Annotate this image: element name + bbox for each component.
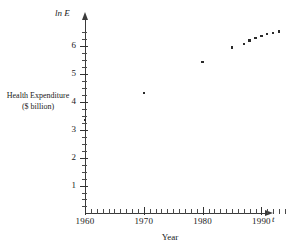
y-tick-minor (82, 53, 87, 54)
data-point (248, 39, 250, 41)
x-tick-minor (120, 209, 121, 214)
y-tick-major (80, 186, 88, 187)
x-tick-minor (161, 209, 162, 214)
x-tick-minor (279, 209, 280, 214)
x-tick-minor (209, 209, 210, 214)
y-axis-arrow-icon (82, 12, 88, 20)
y-tick-minor (82, 60, 87, 61)
x-tick-major (261, 207, 262, 215)
x-tick-major (203, 207, 204, 215)
y-tick-minor (82, 172, 87, 173)
x-tick-minor (179, 209, 180, 214)
data-point (266, 33, 268, 35)
x-tick-minor (156, 209, 157, 214)
data-point (231, 46, 233, 48)
x-tick-minor (267, 209, 268, 214)
x-tick-minor (150, 209, 151, 214)
data-point (278, 30, 280, 32)
y-tick-minor (82, 123, 87, 124)
y-tick-minor (82, 206, 87, 207)
x-tick-minor (244, 209, 245, 214)
y-tick-major (80, 130, 88, 131)
x-tick-minor (185, 209, 186, 214)
data-point (243, 43, 245, 45)
y-tick-label: 6 (62, 40, 76, 50)
x-tick-minor (273, 209, 274, 214)
y-tick-major (80, 158, 88, 159)
x-tick-minor (191, 209, 192, 214)
x-tick-minor (220, 209, 221, 214)
x-tick-label: 1990 (244, 216, 278, 226)
data-point (254, 37, 256, 39)
y-tick-minor (82, 193, 87, 194)
y-tick-label: 1 (62, 180, 76, 190)
data-point (201, 61, 203, 63)
x-tick-minor (285, 209, 286, 214)
y-tick-minor (82, 88, 87, 89)
x-tick-minor (114, 209, 115, 214)
y-tick-label: 5 (62, 68, 76, 78)
x-tick-label: 1980 (186, 216, 220, 226)
data-point (272, 32, 274, 34)
x-tick-minor (250, 209, 251, 214)
y-tick-major (80, 46, 88, 47)
x-tick-minor (103, 209, 104, 214)
x-tick-minor (173, 209, 174, 214)
y-tick-minor (82, 165, 87, 166)
x-tick-minor (132, 209, 133, 214)
y-tick-minor (82, 32, 87, 33)
x-tick-minor (238, 209, 239, 214)
y-tick-minor (82, 199, 87, 200)
y-tick-minor (82, 116, 87, 117)
data-point (260, 35, 262, 37)
y-axis-title: ln E (55, 8, 70, 18)
y-tick-minor (82, 39, 87, 40)
y-tick-minor (82, 81, 87, 82)
y-tick-minor (82, 109, 87, 110)
y-tick-major (80, 74, 88, 75)
y-tick-label: 3 (62, 124, 76, 134)
y-tick-minor (82, 67, 87, 68)
x-tick-minor (232, 209, 233, 214)
data-point (143, 92, 145, 94)
y-tick-minor (82, 151, 87, 152)
y-tick-minor (82, 144, 87, 145)
x-tick-minor (214, 209, 215, 214)
data-point (84, 119, 86, 121)
x-tick-minor (126, 209, 127, 214)
x-tick-minor (256, 209, 257, 214)
x-tick-major (85, 207, 86, 215)
y-tick-label: 2 (62, 152, 76, 162)
y-tick-label: 4 (62, 96, 76, 106)
y-tick-minor (82, 137, 87, 138)
y-tick-minor (82, 95, 87, 96)
chart-canvas: ln E t Health Expenditure ($ billion) Ye… (0, 0, 287, 249)
x-tick-label: 1970 (127, 216, 161, 226)
x-tick-minor (167, 209, 168, 214)
y-tick-major (80, 102, 88, 103)
x-tick-minor (97, 209, 98, 214)
x-tick-label: 1960 (68, 216, 102, 226)
y-tick-minor (82, 179, 87, 180)
x-tick-minor (91, 209, 92, 214)
x-axis-title: Year (140, 232, 200, 242)
x-tick-minor (197, 209, 198, 214)
x-tick-major (144, 207, 145, 215)
x-tick-minor (109, 209, 110, 214)
x-tick-minor (138, 209, 139, 214)
x-tick-minor (226, 209, 227, 214)
